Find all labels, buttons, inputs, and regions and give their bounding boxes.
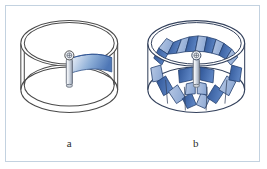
figure-panel-b: b <box>133 6 260 161</box>
shaft-bolt-head-icon <box>191 51 200 60</box>
shaft-bolt-head-icon <box>65 51 74 60</box>
single-blade-rotor-illustration <box>6 8 133 132</box>
multi-blade-rotor-illustration <box>133 8 260 132</box>
panel-b-label: b <box>133 137 260 149</box>
panel-a-label: a <box>6 137 133 149</box>
panel-a-drawing <box>6 8 133 132</box>
center-shaft <box>193 58 199 87</box>
rotor-blade <box>70 54 112 73</box>
figure-frame: a <box>5 5 260 162</box>
figure-panel-a: a <box>6 6 133 161</box>
center-shaft <box>66 58 72 87</box>
panel-b-drawing <box>133 8 260 132</box>
